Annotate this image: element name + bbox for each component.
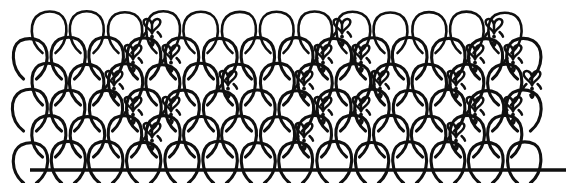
pattern-canvas: [0, 0, 579, 183]
pattern-figure: [0, 0, 579, 183]
